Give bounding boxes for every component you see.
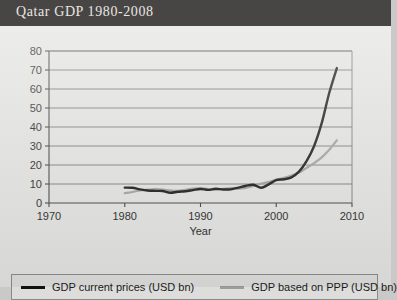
x-tick-label: 2010 <box>340 210 364 222</box>
y-tick-label: 60 <box>30 83 42 95</box>
page-title: Qatar GDP 1980-2008 <box>16 4 154 20</box>
x-tick-label: 2000 <box>264 210 288 222</box>
x-axis-title: Year <box>189 225 212 237</box>
legend-swatch-ppp <box>220 286 244 289</box>
y-tick-label: 0 <box>36 197 42 209</box>
y-tick-label: 40 <box>30 121 42 133</box>
series-line-current-prices <box>125 68 337 193</box>
legend-item-ppp: GDP based on PPP (USD bn) <box>220 275 397 299</box>
chart-panel: 0102030405060708019701980199020002010Yea… <box>0 26 391 287</box>
chart-area: 0102030405060708019701980199020002010Yea… <box>0 26 391 248</box>
chart-legend: GDP current prices (USD bn) GDP based on… <box>11 274 378 300</box>
y-tick-label: 80 <box>30 45 42 57</box>
series-line-ppp <box>125 140 337 193</box>
y-tick-label: 30 <box>30 140 42 152</box>
y-tick-label: 10 <box>30 178 42 190</box>
legend-label-ppp: GDP based on PPP (USD bn) <box>251 281 397 293</box>
legend-label-current-prices: GDP current prices (USD bn) <box>52 281 194 293</box>
title-bar: Qatar GDP 1980-2008 <box>0 0 391 27</box>
legend-item-current-prices: GDP current prices (USD bn) <box>21 275 194 299</box>
x-tick-label: 1980 <box>113 210 137 222</box>
line-chart: 0102030405060708019701980199020002010Yea… <box>0 26 391 248</box>
legend-swatch-current-prices <box>21 286 45 289</box>
y-tick-label: 20 <box>30 159 42 171</box>
y-tick-label: 70 <box>30 64 42 76</box>
x-tick-label: 1970 <box>37 210 61 222</box>
x-tick-label: 1990 <box>188 210 212 222</box>
y-tick-label: 50 <box>30 102 42 114</box>
